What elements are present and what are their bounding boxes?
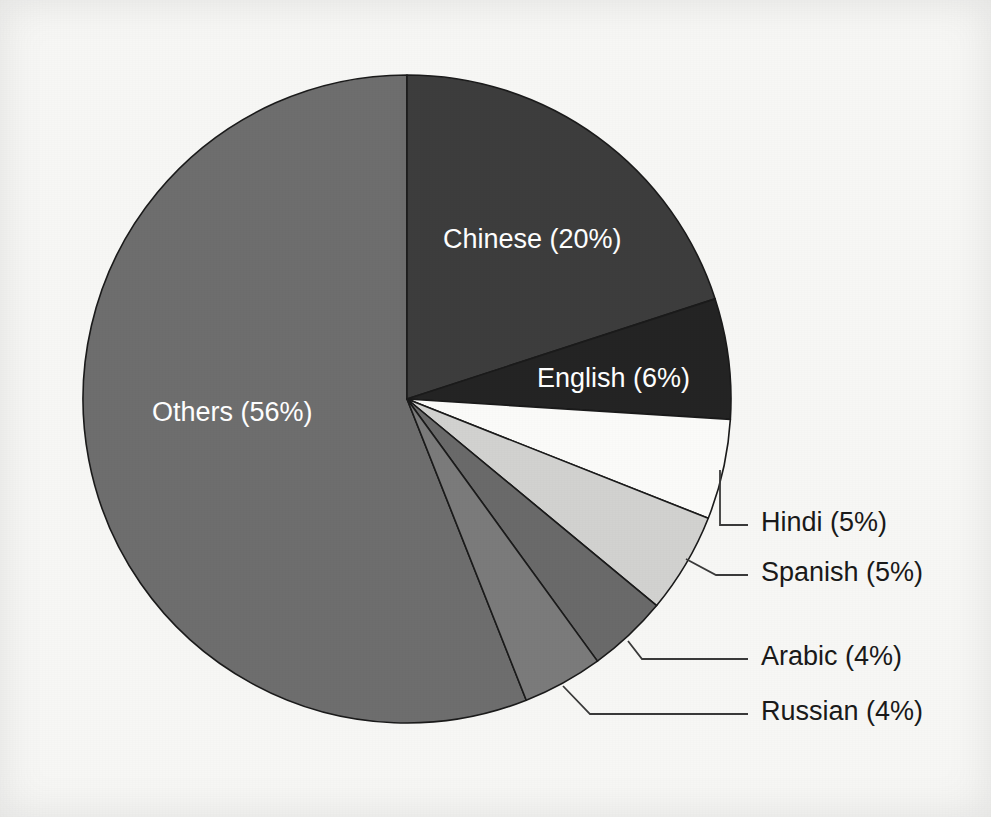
slice-label-hindi: Hindi (5%): [761, 507, 887, 537]
leader-line-russian: [563, 686, 748, 714]
slice-label-russian: Russian (4%): [761, 696, 923, 726]
leader-line-hindi: [720, 470, 748, 525]
slice-label-arabic: Arabic (4%): [761, 641, 902, 671]
leader-line-spanish: [686, 559, 748, 575]
pie-chart-figure: Chinese (20%) English (6%) Others (56%) …: [0, 0, 991, 817]
slice-label-english: English (6%): [537, 363, 690, 393]
pie-chart-canvas: Chinese (20%) English (6%) Others (56%) …: [0, 0, 991, 817]
slice-label-chinese: Chinese (20%): [443, 224, 622, 254]
slice-label-others: Others (56%): [152, 397, 313, 427]
slice-label-spanish: Spanish (5%): [761, 557, 923, 587]
leader-line-arabic: [628, 641, 748, 659]
